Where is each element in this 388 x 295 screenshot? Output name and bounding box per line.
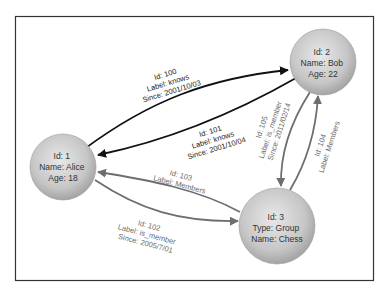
node-alice: Id: 1 Name: Alice Age: 18 <box>30 134 96 200</box>
node-chess: Id: 3 Type: Group Name: Chess <box>239 188 315 264</box>
node-bob: Id: 2 Name: Bob Age: 22 <box>290 29 356 95</box>
property-graph-diagram: Id: 100 Label: knows Since: 2001/10/03 I… <box>0 0 388 295</box>
